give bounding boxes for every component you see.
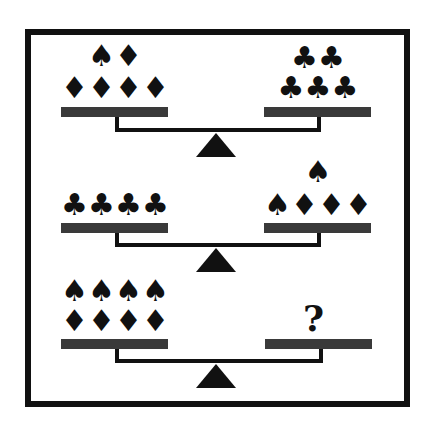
scale-2-right-row-2: ♠ ♦ ♦ ♦ bbox=[264, 190, 371, 220]
diamond-icon: ♦ bbox=[142, 306, 168, 336]
diamond-icon: ♦ bbox=[115, 306, 141, 336]
club-icon: ♣ bbox=[278, 73, 304, 103]
diamond-icon: ♦ bbox=[142, 73, 168, 103]
scale-1-left-row-1: ♠ ♦ bbox=[61, 41, 168, 71]
club-icon: ♣ bbox=[305, 73, 331, 103]
scale-1-left-row-2: ♦ ♦ ♦ ♦ bbox=[61, 73, 168, 103]
scale-1-beam bbox=[115, 128, 321, 132]
scale-1-right-row-2: ♣ ♣ ♣ bbox=[264, 73, 371, 103]
scale-3-left-row-1: ♠ ♠ ♠ ♠ bbox=[61, 276, 168, 306]
spade-icon: ♠ bbox=[88, 276, 114, 306]
scale-2-right-pan bbox=[264, 223, 371, 233]
club-icon: ♣ bbox=[115, 190, 141, 220]
club-icon: ♣ bbox=[318, 43, 344, 73]
diamond-icon: ♦ bbox=[88, 73, 114, 103]
scale-2-left-pan bbox=[61, 223, 168, 233]
spade-icon: ♠ bbox=[115, 276, 141, 306]
spade-icon: ♠ bbox=[142, 276, 168, 306]
scale-2-left-row-1: ♣ ♣ ♣ ♣ bbox=[61, 190, 168, 220]
diamond-icon: ♦ bbox=[318, 190, 344, 220]
spade-icon: ♠ bbox=[264, 190, 290, 220]
scale-1-left-pan bbox=[61, 107, 168, 117]
scale-2-beam bbox=[115, 243, 321, 247]
diamond-icon: ♦ bbox=[61, 73, 87, 103]
diamond-icon: ♦ bbox=[291, 190, 317, 220]
spade-icon: ♠ bbox=[305, 157, 331, 187]
scale-3-beam bbox=[115, 359, 323, 363]
diamond-icon: ♦ bbox=[345, 190, 371, 220]
club-icon: ♣ bbox=[332, 73, 358, 103]
scale-3-left-row-2: ♦ ♦ ♦ ♦ bbox=[61, 306, 168, 336]
diamond-icon: ♦ bbox=[115, 73, 141, 103]
club-icon: ♣ bbox=[142, 190, 168, 220]
scale-1-fulcrum-icon bbox=[196, 133, 236, 157]
question-mark: ? bbox=[303, 300, 324, 336]
scale-1-right-pan bbox=[264, 107, 371, 117]
club-icon: ♣ bbox=[88, 190, 114, 220]
scale-3-fulcrum-icon bbox=[196, 364, 236, 388]
diamond-icon: ♦ bbox=[88, 306, 114, 336]
spade-icon: ♠ bbox=[88, 41, 114, 71]
scale-2-right-row-1: ♠ bbox=[264, 157, 371, 187]
spade-icon: ♠ bbox=[61, 276, 87, 306]
club-icon: ♣ bbox=[61, 190, 87, 220]
club-icon: ♣ bbox=[291, 43, 317, 73]
scale-3-left-pan bbox=[61, 339, 168, 349]
diamond-icon: ♦ bbox=[115, 41, 141, 71]
scale-1-right-row-1: ♣ ♣ bbox=[264, 43, 371, 73]
scale-2-fulcrum-icon bbox=[196, 248, 236, 272]
diamond-icon: ♦ bbox=[61, 306, 87, 336]
scale-3-right-pan bbox=[265, 339, 372, 349]
